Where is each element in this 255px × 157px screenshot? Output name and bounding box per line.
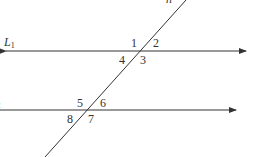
- line1-label: L1: [3, 35, 15, 50]
- angle-7: 7: [88, 112, 94, 126]
- angle-4: 4: [119, 53, 125, 67]
- transversal-n: [45, 0, 186, 157]
- angle-1: 1: [131, 36, 137, 50]
- angle-8: 8: [67, 112, 73, 126]
- angle-5: 5: [77, 96, 83, 110]
- parallel-lines-diagram: n L1 2 1 2 3 4 5 6 7 8: [0, 0, 255, 157]
- line2-label: 2: [0, 100, 1, 110]
- angle-3: 3: [140, 53, 146, 67]
- transversal-label: n: [166, 0, 172, 6]
- angle-6: 6: [100, 96, 106, 110]
- angle-2: 2: [153, 36, 159, 50]
